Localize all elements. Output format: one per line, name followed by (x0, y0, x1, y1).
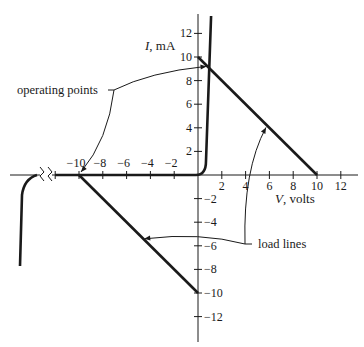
load-line-forward (198, 57, 317, 175)
y-tick-label: −12 (204, 310, 223, 324)
load-lines-label: load lines (258, 237, 306, 251)
break-mark (48, 167, 52, 181)
y-axis-label-unit: , mA (149, 38, 176, 53)
x-axis-label: V, volts (275, 191, 315, 206)
y-axis-label: I, mA (144, 38, 176, 53)
y-tick-label: 12 (180, 26, 192, 40)
x-tick-label: 12 (335, 179, 347, 193)
x-tick-label: −4 (141, 156, 154, 170)
operating-points-label: operating points (17, 83, 98, 97)
load-line-arrow-reverse (145, 236, 245, 244)
x-tick-label: −2 (165, 156, 178, 170)
y-tick-label: 10 (180, 50, 192, 64)
iv-characteristic-diagram: −10−8−6−4−224681012 12108642−2−4−6−8−10−… (0, 0, 364, 347)
x-tick-label: 2 (219, 179, 225, 193)
y-tick-label: −2 (204, 192, 217, 206)
axis-break-marks (40, 167, 52, 181)
y-tick-label: 6 (186, 97, 192, 111)
y-tick-label: −6 (204, 239, 217, 253)
break-mark (40, 167, 44, 181)
reverse-breakdown-curve (20, 175, 37, 266)
axes: −10−8−6−4−224681012 12108642−2−4−6−8−10−… (10, 14, 358, 342)
load-line-reverse (79, 175, 198, 293)
x-axis-label-unit: , volts (283, 191, 315, 206)
x-tick-label: 6 (266, 179, 272, 193)
y-tick-label: −8 (204, 262, 217, 276)
x-tick-label: −6 (117, 156, 130, 170)
y-tick-label: −10 (204, 286, 223, 300)
y-tick-label: 2 (186, 144, 192, 158)
y-tick-label: −4 (204, 215, 217, 229)
y-tick-label: 4 (186, 121, 192, 135)
callouts (81, 65, 266, 244)
x-tick-label: −8 (93, 156, 106, 170)
curves (20, 16, 317, 293)
y-tick-label: 8 (186, 74, 192, 88)
load-line-arrow-forward (245, 127, 266, 244)
